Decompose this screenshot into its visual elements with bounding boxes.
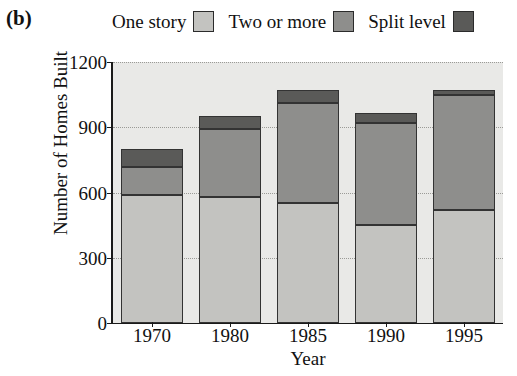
x-tick-label-1980: 1980 xyxy=(190,326,270,345)
bar-segment-1995-split-level xyxy=(433,90,495,94)
y-tick-mark-1200 xyxy=(107,62,113,63)
x-axis-title: Year xyxy=(113,348,503,370)
y-tick-mark-600 xyxy=(107,193,113,194)
x-tick-label-1985: 1985 xyxy=(268,326,348,345)
x-tick-label-1990: 1990 xyxy=(346,326,426,345)
y-tick-mark-300 xyxy=(107,258,113,259)
bar-segment-1985-one-story xyxy=(277,203,339,323)
bar-segment-1985-split-level xyxy=(277,90,339,103)
y-tick-mark-900 xyxy=(107,127,113,128)
y-tick-label-600: 600 xyxy=(45,184,107,203)
y-tick-label-900: 900 xyxy=(45,118,107,137)
legend-label-split-level: Split level xyxy=(368,12,453,31)
bar-group-1980 xyxy=(199,62,261,323)
bar-segment-1990-split-level xyxy=(355,113,417,123)
y-tick-label-1200: 1200 xyxy=(45,53,107,72)
bar-group-1995 xyxy=(433,62,495,323)
bar-group-1990 xyxy=(355,62,417,323)
chart-legend: One storyTwo or moreSplit level xyxy=(112,8,474,34)
panel-label: (b) xyxy=(6,6,32,31)
figure-panel-b: (b) One storyTwo or moreSplit level Numb… xyxy=(0,0,517,376)
legend-label-one-story: One story xyxy=(112,12,193,31)
bar-segment-1990-one-story xyxy=(355,225,417,323)
legend-label-two-or-more: Two or more xyxy=(228,12,333,31)
legend-swatch-two-or-more xyxy=(333,11,354,32)
legend-swatch-split-level xyxy=(453,11,474,32)
bar-segment-1995-one-story xyxy=(433,210,495,323)
bar-segment-1970-split-level xyxy=(121,149,183,167)
x-tick-label-1995: 1995 xyxy=(424,326,504,345)
bar-segment-1980-one-story xyxy=(199,197,261,323)
bar-group-1985 xyxy=(277,62,339,323)
plot-area: 03006009001200 xyxy=(113,62,503,323)
bar-segment-1970-one-story xyxy=(121,195,183,323)
legend-swatch-one-story xyxy=(193,11,214,32)
bar-segment-1990-two-or-more xyxy=(355,123,417,225)
legend-entry-two-or-more: Two or more xyxy=(228,11,368,32)
y-tick-label-300: 300 xyxy=(45,249,107,268)
bar-segment-1995-two-or-more xyxy=(433,95,495,210)
legend-entry-split-level: Split level xyxy=(368,11,474,32)
bar-group-1970 xyxy=(121,62,183,323)
bar-segment-1985-two-or-more xyxy=(277,103,339,203)
y-tick-mark-0 xyxy=(107,323,113,324)
bar-segment-1980-split-level xyxy=(199,116,261,129)
y-tick-label-0: 0 xyxy=(45,314,107,333)
bar-segment-1980-two-or-more xyxy=(199,129,261,196)
bar-segment-1970-two-or-more xyxy=(121,167,183,194)
x-tick-label-1970: 1970 xyxy=(112,326,192,345)
legend-entry-one-story: One story xyxy=(112,11,228,32)
